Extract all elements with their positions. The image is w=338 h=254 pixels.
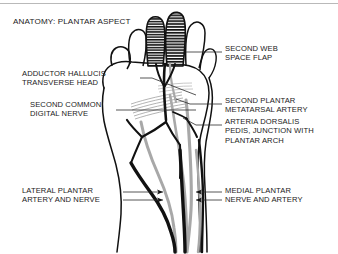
- leader-second-plantar-metatarsal-artery: [176, 99, 222, 104]
- toe-hallux-outline: [111, 47, 130, 69]
- label-lateral-plantar-artery-and-nerve: LATERAL PLANTAR ARTERY AND NERVE: [22, 186, 100, 205]
- figure-title: ANATOMY: PLANTAR ASPECT: [13, 17, 131, 26]
- toe-second-outline: [129, 30, 147, 66]
- lateral-plantar-nerve: [131, 163, 175, 252]
- second-common-digital-nerve: [164, 64, 166, 120]
- label-second-plantar-metatarsal-artery: SECOND PLANTAR METATARSAL ARTERY: [225, 96, 308, 115]
- digital-nerve-branch-4: [166, 122, 180, 145]
- arterial-tree: [141, 64, 200, 252]
- label-second-common-digital-nerve: SECOND COMMON DIGITAL NERVE: [30, 100, 101, 119]
- second-common-digital-nerve-branch-medial: [156, 64, 164, 86]
- digital-nerve-branch-1: [142, 122, 166, 137]
- label-medial-plantar-nerve-and-artery: MEDIAL PLANTAR NERVE AND ARTERY: [225, 186, 303, 205]
- digital-nerve-branch-3: [131, 137, 142, 163]
- medial-plantar-nerve: [180, 150, 185, 252]
- web-space-flap-toe-medial: [146, 17, 165, 66]
- label-adductor-hallucis-transverse-head: ADDUCTOR HALLUCIS TRANSVERSE HEAD: [22, 69, 106, 88]
- anatomy-figure-page: ANATOMY: PLANTAR ASPECT SECOND WEB SPACE…: [0, 0, 338, 254]
- foot-medial-border: [103, 88, 122, 252]
- lateral-plantar-artery-companion: [196, 150, 200, 252]
- label-arteria-dorsalis-pedis: ARTERIA DORSALIS PEDIS, JUNCTION WITH PL…: [225, 117, 314, 145]
- toe-fourth-outline: [186, 22, 205, 68]
- label-second-web-space-flap: SECOND WEB SPACE FLAP: [225, 44, 278, 63]
- foot-sole-outline: [103, 62, 209, 252]
- web-space-flap-toe-lateral: [166, 12, 186, 66]
